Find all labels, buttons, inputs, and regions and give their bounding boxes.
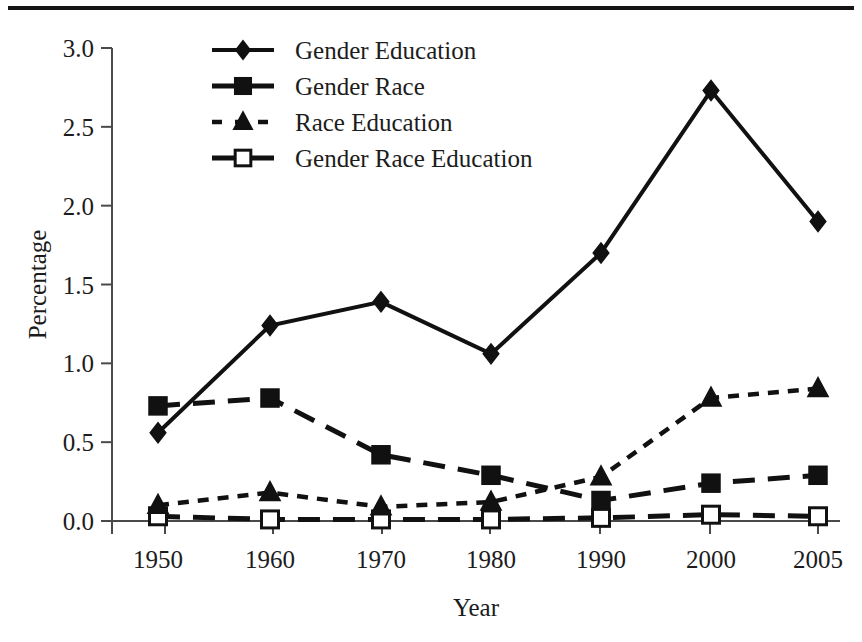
marker-open-square [593, 509, 610, 526]
x-tick-label: 1990 [576, 546, 626, 573]
marker-open-square [235, 150, 251, 166]
marker-open-square [262, 511, 279, 528]
legend: Gender EducationGender RaceRace Educatio… [212, 37, 533, 172]
legend-label: Gender Race [295, 73, 425, 100]
legend-label: Race Education [295, 109, 453, 136]
chart-plot-area: 0.00.51.01.52.02.53.01950196019701980199… [0, 0, 862, 642]
marker-open-square [703, 506, 720, 523]
marker-open-square [810, 508, 827, 525]
axes-group [112, 48, 840, 521]
series-race-education [148, 378, 828, 515]
y-tick-label: 2.5 [63, 114, 94, 141]
y-tick-label: 1.5 [63, 272, 94, 299]
x-tick-label: 1970 [356, 546, 406, 573]
y-tick-label: 2.0 [63, 193, 94, 220]
x-tick-label: 1960 [245, 546, 295, 573]
series-gender-education [150, 81, 826, 443]
marker-filled-triangle [260, 482, 280, 501]
marker-open-square [483, 511, 500, 528]
series-gender-race [149, 389, 827, 509]
y-tick-label: 3.0 [63, 35, 94, 62]
legend-item-gender-education[interactable]: Gender Education [212, 37, 477, 64]
series-line [158, 91, 818, 433]
marker-filled-square [372, 446, 390, 464]
y-tick-label: 0.5 [63, 429, 94, 456]
legend-item-gender-race-education[interactable]: Gender Race Education [212, 145, 533, 172]
marker-filled-triangle [591, 466, 611, 485]
legend-label: Gender Education [295, 37, 477, 64]
line-chart: 0.00.51.01.52.02.53.01950196019701980199… [0, 0, 862, 642]
figure-container: 0.00.51.01.52.02.53.01950196019701980199… [0, 0, 862, 642]
x-tick-label: 2000 [686, 546, 736, 573]
marker-filled-square [235, 78, 252, 95]
x-tick-label: 1950 [133, 546, 183, 573]
marker-filled-square [809, 466, 827, 484]
marker-filled-square [702, 474, 720, 492]
x-axis-title: Year [453, 594, 500, 621]
x-tick-label: 1980 [466, 546, 516, 573]
x-axis-ticks: 1950196019701980199020002005 [112, 521, 843, 573]
marker-filled-square [149, 397, 167, 415]
x-tick-label: 2005 [793, 546, 843, 573]
y-axis-ticks: 0.00.51.01.52.02.53.0 [63, 35, 112, 535]
legend-label: Gender Race Education [295, 145, 533, 172]
marker-filled-square [592, 492, 610, 510]
legend-item-race-education[interactable]: Race Education [212, 109, 453, 136]
legend-item-gender-race[interactable]: Gender Race [212, 73, 425, 100]
y-tick-label: 0.0 [63, 508, 94, 535]
marker-filled-diamond [236, 41, 250, 59]
marker-filled-diamond [373, 292, 389, 312]
y-tick-label: 1.0 [63, 350, 94, 377]
y-axis-title: Percentage [24, 230, 51, 340]
marker-filled-triangle [371, 496, 391, 515]
marker-filled-square [482, 466, 500, 484]
marker-filled-square [261, 389, 279, 407]
